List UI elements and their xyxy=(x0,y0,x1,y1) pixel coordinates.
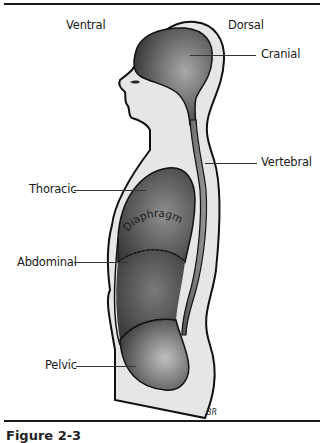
pelvic-label: Pelvic xyxy=(45,358,77,372)
cranial-leader-line xyxy=(190,55,256,56)
abdominal-leader-line xyxy=(74,262,129,263)
abdominal-label: Abdominal xyxy=(17,255,77,269)
figure-caption: Figure 2-3 xyxy=(6,428,81,443)
cranial-label: Cranial xyxy=(261,47,300,61)
pelvic-leader-line xyxy=(76,366,136,367)
thoracic-leader-line xyxy=(74,190,146,191)
artist-signature: BR xyxy=(206,408,217,417)
vertebral-leader-line xyxy=(205,163,257,164)
thoracic-label: Thoracic xyxy=(29,182,76,196)
dorsal-label: Dorsal xyxy=(228,18,264,32)
bottom-rule xyxy=(4,420,320,422)
ventral-label: Ventral xyxy=(66,18,105,32)
vertebral-label: Vertebral xyxy=(261,155,312,169)
